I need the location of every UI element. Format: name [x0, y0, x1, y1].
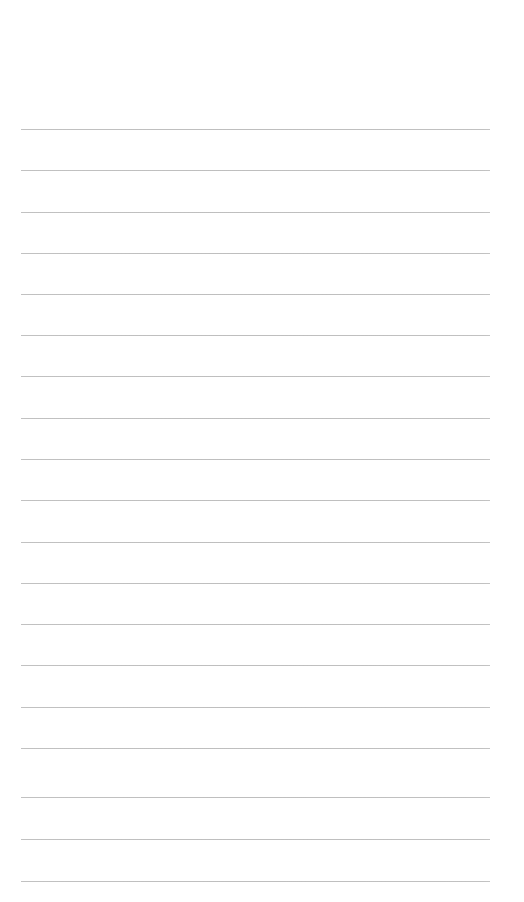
rule-row[interactable] [0, 543, 524, 584]
rule-row[interactable] [0, 295, 524, 336]
writing-line-16[interactable] [21, 709, 490, 748]
writing-line-11[interactable] [21, 503, 490, 542]
horizontal-rule-16 [21, 748, 490, 749]
writing-line-17[interactable] [21, 758, 490, 797]
horizontal-rule-7 [21, 376, 490, 377]
rule-row[interactable] [0, 757, 524, 798]
rule-row[interactable] [0, 336, 524, 377]
rule-row[interactable] [0, 502, 524, 543]
writing-line-5[interactable] [21, 255, 490, 294]
writing-line-7[interactable] [21, 337, 490, 376]
writing-line-1[interactable] [21, 90, 490, 129]
rule-row[interactable] [0, 172, 524, 213]
page-bottom-margin [0, 882, 524, 902]
writing-line-2[interactable] [21, 131, 490, 170]
rule-row[interactable] [0, 130, 524, 171]
writing-line-13[interactable] [21, 585, 490, 624]
rule-row[interactable] [0, 708, 524, 749]
rule-row[interactable] [0, 625, 524, 666]
rule-row[interactable] [0, 213, 524, 254]
horizontal-rule-14 [21, 665, 490, 666]
writing-line-6[interactable] [21, 296, 490, 335]
writing-line-14[interactable] [21, 626, 490, 665]
rule-row[interactable] [0, 89, 524, 130]
writing-line-12[interactable] [21, 544, 490, 583]
writing-line-19[interactable] [21, 842, 490, 881]
horizontal-rule-10 [21, 500, 490, 501]
lined-paper-page [0, 0, 524, 902]
rule-row[interactable] [0, 460, 524, 501]
horizontal-rule-18 [21, 839, 490, 840]
writing-line-15[interactable] [21, 668, 490, 707]
writing-line-10[interactable] [21, 461, 490, 500]
writing-line-9[interactable] [21, 420, 490, 459]
writing-line-3[interactable] [21, 173, 490, 212]
writing-line-4[interactable] [21, 214, 490, 253]
rule-row[interactable] [0, 841, 524, 882]
rule-row[interactable] [0, 584, 524, 625]
rule-row[interactable] [0, 378, 524, 419]
rule-row[interactable] [0, 667, 524, 708]
rule-row[interactable] [0, 254, 524, 295]
horizontal-rule-2 [21, 170, 490, 171]
rule-row[interactable] [0, 799, 524, 840]
ruled-writing-area[interactable] [0, 0, 524, 902]
writing-line-18[interactable] [21, 800, 490, 839]
writing-line-8[interactable] [21, 379, 490, 418]
horizontal-rule-17 [21, 797, 490, 798]
rule-row[interactable] [0, 419, 524, 460]
